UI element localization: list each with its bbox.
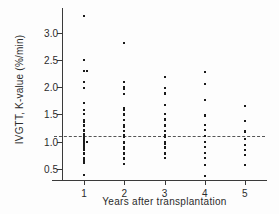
data-point <box>164 130 166 132</box>
data-point <box>164 87 166 89</box>
data-point <box>123 148 125 150</box>
data-point <box>204 146 206 148</box>
data-point <box>83 87 85 89</box>
y-tick-label: 1.5 <box>44 109 58 120</box>
chart-figure: IVGTT, K-value (%/min) 0.51.01.52.02.53.… <box>0 0 279 214</box>
y-tick-label: 2.0 <box>44 82 58 93</box>
x-tick <box>84 180 85 185</box>
data-point <box>244 105 246 107</box>
reference-line <box>54 136 265 137</box>
x-tick <box>205 180 206 185</box>
x-tick <box>124 180 125 185</box>
data-point <box>123 158 125 160</box>
y-axis-title: IVGTT, K-value (%/min) <box>14 5 25 175</box>
data-point <box>204 124 206 126</box>
data-point <box>164 147 166 149</box>
data-point <box>123 81 125 83</box>
data-point <box>83 70 85 72</box>
data-point <box>244 144 246 146</box>
data-point <box>83 125 85 127</box>
data-point <box>164 104 166 106</box>
data-point <box>123 88 125 90</box>
data-point <box>123 114 125 116</box>
data-point <box>244 131 246 133</box>
y-tick-label: 2.5 <box>44 54 58 65</box>
data-point <box>83 149 85 151</box>
data-point <box>123 93 125 95</box>
data-point <box>83 102 85 104</box>
data-point <box>204 152 206 154</box>
data-point <box>204 129 206 131</box>
data-point <box>123 136 125 138</box>
data-point <box>164 136 166 138</box>
x-tick <box>165 180 166 185</box>
data-point <box>204 71 206 73</box>
data-point <box>164 157 166 159</box>
data-point <box>123 126 125 128</box>
data-point <box>123 163 125 165</box>
data-point <box>164 125 166 127</box>
data-point <box>83 81 85 83</box>
data-point <box>164 76 166 78</box>
data-point <box>244 149 246 151</box>
data-point <box>204 141 206 143</box>
data-point <box>123 119 125 121</box>
data-point <box>164 153 166 155</box>
data-point <box>123 153 125 155</box>
data-point <box>204 175 206 177</box>
data-point <box>86 70 88 72</box>
data-point <box>164 119 166 121</box>
data-point <box>244 154 246 156</box>
data-point <box>83 59 85 61</box>
data-point <box>83 121 85 123</box>
y-tick-label: 0.5 <box>44 164 58 175</box>
data-point <box>83 174 85 176</box>
data-point <box>164 93 166 95</box>
data-point <box>83 162 85 164</box>
data-point <box>83 158 85 160</box>
data-point <box>83 15 85 17</box>
data-point <box>123 42 125 44</box>
data-point <box>83 109 85 111</box>
data-point <box>204 135 206 137</box>
data-point <box>204 83 206 85</box>
data-point <box>204 157 206 159</box>
y-axis-line <box>62 8 63 180</box>
y-tick-label: 3.0 <box>44 27 58 38</box>
data-point <box>244 120 246 122</box>
data-point <box>164 113 166 115</box>
data-point <box>244 164 246 166</box>
data-point <box>164 143 166 145</box>
plot-area: 0.51.01.52.02.53.0 12345 <box>62 8 267 180</box>
x-axis-title: Years after transplantation <box>62 196 267 207</box>
data-point <box>86 141 88 143</box>
data-point <box>244 138 246 140</box>
x-tick <box>245 180 246 185</box>
data-point <box>83 153 85 155</box>
data-point <box>123 109 125 111</box>
data-point <box>123 142 125 144</box>
data-point <box>204 115 206 117</box>
data-point <box>83 113 85 115</box>
y-tick-label: 1.0 <box>44 136 58 147</box>
data-point <box>204 164 206 166</box>
data-point <box>204 99 206 101</box>
data-point <box>123 130 125 132</box>
